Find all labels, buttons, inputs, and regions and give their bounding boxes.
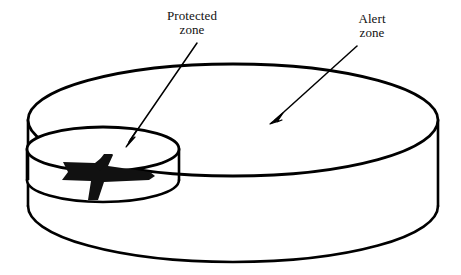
alert-zone-label: Alert zone: [336, 12, 408, 40]
alert-zone-label-line1: Alert: [336, 12, 408, 26]
protected-zone-label: Protected zone: [152, 9, 232, 37]
figure-container: Protected zone Alert zone: [0, 0, 461, 275]
zone-diagram: [0, 0, 461, 275]
protected-zone-label-line2: zone: [152, 23, 232, 37]
protected-zone-label-line1: Protected: [152, 9, 232, 23]
alert-zone-bottom-arc: [28, 206, 438, 262]
alert-zone-label-line2: zone: [336, 26, 408, 40]
